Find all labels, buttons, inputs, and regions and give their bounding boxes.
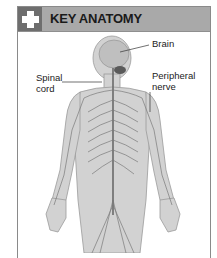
label-peripheral-line1: Peripheral — [152, 70, 195, 81]
label-spinal-cord: Spinal cord — [36, 72, 62, 94]
label-spinal-line2: cord — [36, 83, 62, 94]
label-spinal-line1: Spinal — [36, 72, 62, 83]
label-peripheral-nerve: Peripheral nerve — [152, 70, 195, 92]
label-brain: Brain — [152, 38, 174, 49]
label-peripheral-line2: nerve — [152, 81, 195, 92]
